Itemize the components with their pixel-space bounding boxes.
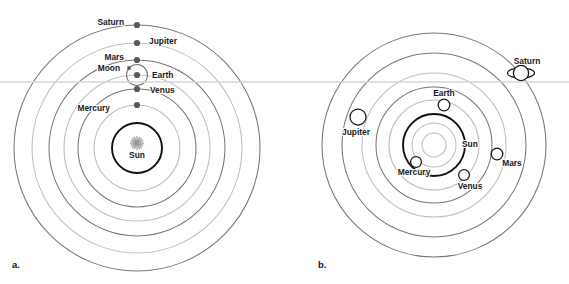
venus-label-a: Venus <box>150 85 175 95</box>
solar-system-diagram-canvas: Sun Mercury Venus Earth Mars Jupiter Sat… <box>0 0 569 284</box>
mars-body-a[interactable] <box>134 57 140 63</box>
earth-label-b: Earth <box>433 88 454 98</box>
moon-label-a: Moon <box>98 63 120 73</box>
saturn-body-a[interactable] <box>134 22 140 28</box>
mars-label-b: Mars <box>502 158 522 168</box>
panel-b-orbits <box>322 33 546 257</box>
panel-a: Sun Mercury Venus Earth Mars Jupiter Sat… <box>14 17 260 271</box>
moon-body-a[interactable] <box>127 66 130 69</box>
earth-body-b[interactable] <box>438 99 450 111</box>
jupiter-label-b: Jupiter <box>342 127 371 137</box>
mercury-body-a[interactable] <box>134 102 140 108</box>
saturn-disc-b <box>513 65 528 80</box>
panel-b-caption: b. <box>318 259 326 270</box>
saturn-body-b[interactable] <box>508 65 535 80</box>
mercury-body-b[interactable] <box>411 157 422 168</box>
sun-core-b <box>422 133 446 157</box>
earth-body-a[interactable] <box>134 72 140 78</box>
jupiter-label-a: Jupiter <box>149 36 178 46</box>
starburst-icon <box>131 137 144 150</box>
saturn-label-a: Saturn <box>97 17 124 27</box>
venus-body-b[interactable] <box>459 170 470 181</box>
panel-b: Sun Mercury Venus Earth Mars Jupiter Sat… <box>322 33 546 257</box>
earth-label-a: Earth <box>152 70 173 80</box>
sun-label-b: Sun <box>462 139 478 149</box>
mercury-label-a: Mercury <box>77 103 110 113</box>
saturn-orbit-b <box>322 33 546 257</box>
jupiter-body-a[interactable] <box>134 40 140 46</box>
saturn-label-b: Saturn <box>514 56 541 66</box>
jupiter-orbit-b <box>342 53 526 237</box>
venus-label-b: Venus <box>458 181 483 191</box>
jupiter-body-b[interactable] <box>350 109 366 125</box>
mars-body-b[interactable] <box>491 148 503 160</box>
panel-a-caption: a. <box>12 259 20 270</box>
sun-label-a: Sun <box>129 150 145 160</box>
venus-body-a[interactable] <box>134 86 140 92</box>
astronomy-figure: Sun Mercury Venus Earth Mars Jupiter Sat… <box>0 0 569 284</box>
mars-label-a: Mars <box>104 52 124 62</box>
mercury-label-b: Mercury <box>398 167 431 177</box>
